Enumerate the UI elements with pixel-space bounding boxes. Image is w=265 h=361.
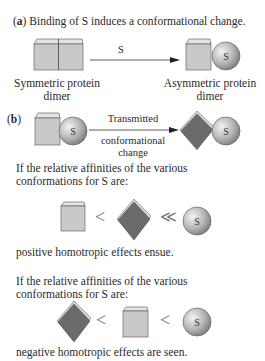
asymmetric-caption: Asymmetric protein dimer (162, 77, 258, 103)
panel-a-label: a (17, 15, 23, 27)
panel-a-title: (a) Binding of S induces a conformationa… (13, 15, 246, 28)
panel-b-label: b (11, 113, 17, 125)
less-than-symbol-1: < (95, 207, 105, 228)
symmetric-caption-line1: Symmetric protein (12, 77, 102, 90)
diamond-icon (56, 300, 92, 344)
cube-icon (61, 202, 85, 232)
panel-b-label-wrap: (b) (7, 113, 21, 126)
symmetric-caption: Symmetric protein dimer (12, 77, 102, 103)
ligand-sphere-icon: S (182, 307, 212, 337)
cube-with-ligand-icon: S (35, 113, 89, 146)
asymmetric-caption-line2: dimer (162, 90, 258, 103)
ligand-sphere-icon: S (182, 206, 212, 236)
svg-text:S: S (70, 126, 76, 137)
panel-a-title-text: Binding of S induces a conformational ch… (29, 15, 245, 27)
arrow-a-label: S (118, 44, 124, 56)
case1-intro: If the relative affinities of the variou… (16, 162, 188, 188)
svg-text:S: S (194, 317, 200, 328)
asymmetric-caption-line1: Asymmetric protein (162, 77, 258, 90)
cube-icon (123, 307, 149, 338)
diamond-icon (116, 198, 152, 242)
svg-text:S: S (223, 126, 229, 137)
less-than-symbol-2: < (96, 310, 106, 331)
symmetric-caption-line2: dimer (12, 90, 102, 103)
ligand-s-label: S (223, 51, 229, 62)
case2-intro: If the relative affinities of the variou… (16, 275, 188, 301)
case1-conclusion: positive homotropic effects ensue. (16, 246, 174, 259)
arrow-b-icon (89, 127, 179, 133)
symmetric-dimer-icon (34, 39, 84, 71)
case1-intro-line1: If the relative affinities of the variou… (16, 162, 188, 175)
less-than-symbol-3: < (160, 310, 170, 331)
case2-intro-line1: If the relative affinities of the variou… (16, 275, 188, 288)
case2-conclusion: negative homotropic effects are seen. (16, 346, 187, 359)
case2-intro-line2: conformations for S are: (16, 288, 188, 301)
diamond-with-ligand-icon: S (180, 110, 242, 152)
arrow-b-label-line2: conformational (90, 135, 176, 147)
asymmetric-dimer-icon: S (186, 39, 242, 72)
arrow-b-label-top: Transmitted (90, 113, 176, 125)
arrow-a-icon (90, 57, 180, 63)
arrow-b-label-line3: change (90, 147, 176, 159)
arrow-b-label-bottom: conformational change (90, 135, 176, 159)
svg-text:S: S (194, 216, 200, 227)
much-less-than-symbol: ≪ (160, 207, 177, 226)
case1-intro-line2: conformations for S are: (16, 175, 188, 188)
